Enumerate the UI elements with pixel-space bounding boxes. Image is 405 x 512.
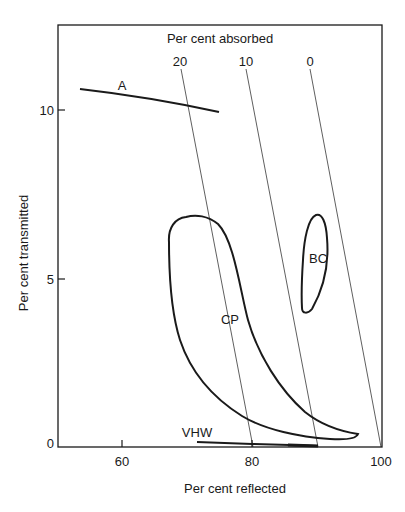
region-bc-label: BC: [309, 251, 327, 266]
curve-vhw-thick: [288, 445, 318, 446]
plot-frame: [58, 25, 382, 447]
absorbed-title: Per cent absorbed: [167, 31, 273, 46]
x-tick-label-80: 80: [245, 454, 259, 469]
curve-a: [80, 89, 219, 112]
curve-a-label: A: [118, 78, 127, 93]
y-tick-label-5: 5: [47, 272, 54, 287]
isoline-20: [181, 69, 253, 447]
region-cp-label: CP: [221, 312, 239, 327]
y-tick-label-10: 10: [40, 103, 54, 118]
x-tick-label-60: 60: [115, 454, 129, 469]
y-tick-label-0: 0: [47, 436, 54, 451]
isoline-10: [246, 69, 318, 447]
isoline-0-label: 0: [306, 54, 313, 69]
y-axis-title: Per cent transmitted: [16, 195, 31, 311]
chart-svg: Per cent absorbed 20 10 0 10 5 0 60 80 1…: [0, 0, 405, 512]
y-ticks: [58, 110, 65, 279]
x-tick-label-100: 100: [370, 454, 392, 469]
region-cp: [169, 216, 358, 440]
isoline-20-label: 20: [173, 54, 187, 69]
curve-vhw-label: VHW: [182, 425, 213, 440]
reflectance-transmittance-chart: Per cent absorbed 20 10 0 10 5 0 60 80 1…: [0, 0, 405, 512]
isoline-10-label: 10: [239, 54, 253, 69]
x-axis-title: Per cent reflected: [184, 481, 286, 496]
